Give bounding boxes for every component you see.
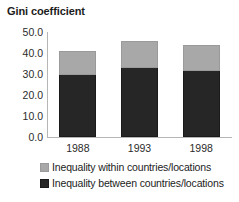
x-axis-line: [47, 137, 232, 138]
x-tick-label: 1998: [171, 142, 231, 154]
y-tick-label: 40.0: [1, 47, 43, 59]
bar-segment-between[interactable]: [183, 71, 220, 137]
y-tick-label: 0.0: [1, 131, 43, 143]
bar-segment-within[interactable]: [183, 45, 220, 72]
y-tick-label: 50.0: [1, 26, 43, 38]
legend-item-within: Inequality within countries/locations: [40, 159, 239, 175]
legend-label-within: Inequality within countries/locations: [52, 161, 211, 173]
y-tick-label: 30.0: [1, 68, 43, 80]
legend-swatch-between-icon: [40, 179, 49, 188]
legend-swatch-within-icon: [40, 163, 49, 172]
legend-item-between: Inequality between countries/locations: [40, 175, 239, 191]
chart-title: Gini coefficient: [7, 5, 85, 17]
bar-segment-between[interactable]: [121, 68, 158, 137]
bar-segment-within[interactable]: [59, 51, 96, 75]
chart-legend: Inequality within countries/locations In…: [40, 159, 239, 191]
bar-group[interactable]: [183, 45, 220, 137]
y-tick-label: 10.0: [1, 110, 43, 122]
plot-area: 198819931998: [47, 32, 232, 138]
x-tick-label: 1993: [110, 142, 170, 154]
y-tick-label: 20.0: [1, 89, 43, 101]
bar-group[interactable]: [121, 41, 158, 137]
bar-group[interactable]: [59, 51, 96, 137]
y-axis-line: [47, 32, 48, 138]
bar-segment-within[interactable]: [121, 41, 158, 68]
legend-label-between: Inequality between countries/locations: [52, 177, 224, 189]
x-tick-label: 1988: [48, 142, 108, 154]
gini-coefficient-chart: Gini coefficient 50.040.030.020.010.00.0…: [0, 0, 239, 202]
bar-segment-between[interactable]: [59, 75, 96, 137]
